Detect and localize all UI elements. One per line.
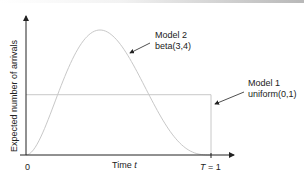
annotation-model-2-line-2: beta(3,4) xyxy=(155,41,191,51)
annotation-model-2: Model 2 beta(3,4) xyxy=(130,30,191,53)
y-axis-label: Expected number of arrivals xyxy=(9,39,19,152)
annotation-model-1: Model 1 uniform(0,1) xyxy=(215,78,297,104)
x-tick-label-0: 0 xyxy=(25,162,30,172)
annotation-model-2-line-1: Model 2 xyxy=(155,30,187,40)
x-axis-label: Time t xyxy=(112,160,137,170)
annotation-model-1-arrow xyxy=(215,92,244,104)
x-tick-label-1: T = 1 xyxy=(200,162,221,172)
annotation-model-2-arrow xyxy=(130,43,150,53)
annotation-model-1-line-2: uniform(0,1) xyxy=(248,89,297,99)
arrivals-chart: 0 T = 1 Time t Expected number of arriva… xyxy=(0,0,304,183)
annotation-model-1-line-1: Model 1 xyxy=(248,78,280,88)
